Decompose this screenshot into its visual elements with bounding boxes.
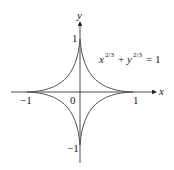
- astroid-diagram: x y 0 −1 1 1 −1 x 2/3 + y 2/3 = 1: [0, 0, 174, 170]
- svg-text:2/3: 2/3: [105, 51, 114, 59]
- equation-label: x 2/3 + y 2/3 = 1: [98, 51, 160, 65]
- y-axis-label: y: [76, 9, 82, 21]
- x-tick-1: 1: [133, 94, 139, 106]
- svg-text:+: +: [118, 53, 124, 65]
- svg-text:2/3: 2/3: [133, 51, 142, 59]
- svg-text:y: y: [126, 53, 132, 65]
- x-axis-label: x: [158, 85, 164, 97]
- y-tick-neg1: −1: [67, 142, 79, 154]
- svg-text:x: x: [98, 53, 104, 65]
- svg-text:= 1: = 1: [146, 53, 160, 65]
- origin-label: 0: [70, 94, 76, 106]
- y-tick-1: 1: [72, 32, 78, 44]
- x-tick-neg1: −1: [20, 94, 32, 106]
